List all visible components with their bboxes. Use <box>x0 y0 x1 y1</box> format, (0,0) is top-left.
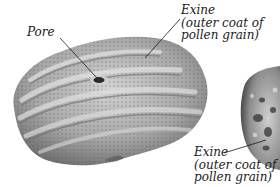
exine-label-right-grain: Exine (outer coat of pollen grain) <box>194 146 277 184</box>
left-pollen-grain <box>13 37 207 166</box>
exine-label-title: Exine <box>181 4 264 17</box>
pore <box>90 75 108 85</box>
pore-label: Pore <box>27 26 55 39</box>
exine-label-desc-line2: pollen grain) <box>181 29 264 42</box>
exine-label-desc-line2: pollen grain) <box>194 171 277 184</box>
exine-label-title: Exine <box>194 146 277 159</box>
exine-label-left-grain: Exine (outer coat of pollen grain) <box>181 4 264 42</box>
pollen-diagram: Pore Exine (outer coat of pollen grain) … <box>0 0 280 187</box>
